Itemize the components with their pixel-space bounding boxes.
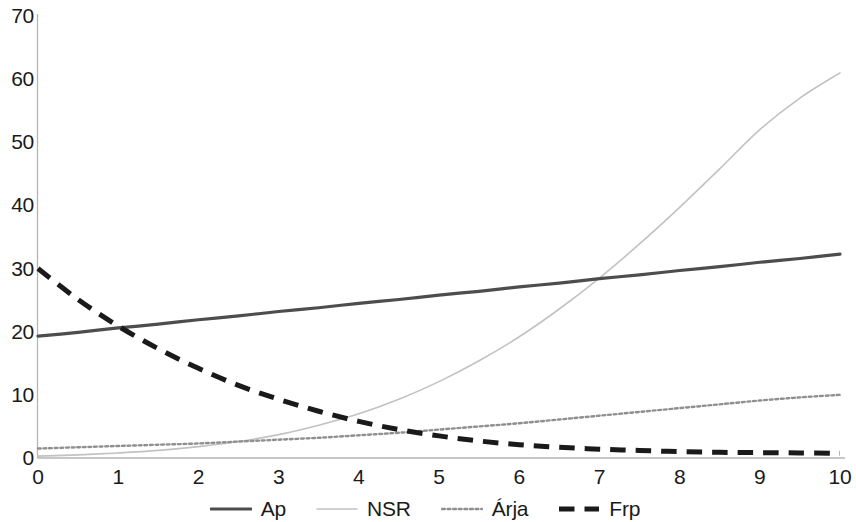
axis-lines: [38, 14, 846, 458]
x-tick-8: 8: [660, 466, 700, 487]
y-tick-70: 70: [0, 5, 34, 26]
y-tick-40: 40: [0, 194, 34, 215]
y-tick-60: 60: [0, 68, 34, 89]
x-tick-0: 0: [18, 466, 58, 487]
legend-item-frp[interactable]: Frp: [558, 498, 640, 519]
legend-item-árja[interactable]: Árja: [441, 498, 529, 519]
legend-label-árja: Árja: [492, 498, 529, 519]
x-tick-4: 4: [339, 466, 379, 487]
y-tick-50: 50: [0, 131, 34, 152]
y-tick-20: 20: [0, 321, 34, 342]
y-tick-30: 30: [0, 258, 34, 279]
series-line-ap: [38, 254, 840, 336]
x-tick-7: 7: [579, 466, 619, 487]
legend-swatch-nsr-icon: [316, 503, 358, 515]
series-group: [38, 73, 840, 456]
legend-swatch-árja-icon: [441, 503, 483, 515]
legend-item-ap[interactable]: Ap: [210, 498, 286, 519]
legend-label-frp: Frp: [609, 498, 640, 519]
y-tick-0: 0: [0, 447, 34, 468]
legend-swatch-frp-icon: [558, 503, 600, 515]
y-tick-10: 10: [0, 384, 34, 405]
x-tick-9: 9: [740, 466, 780, 487]
series-line-árja: [38, 395, 840, 449]
x-axis-tick-labels: 012345678910: [0, 466, 850, 494]
x-tick-10: 10: [820, 466, 856, 487]
chart-legend: ApNSRÁrjaFrp: [0, 495, 850, 522]
series-line-nsr: [38, 73, 840, 456]
legend-item-nsr[interactable]: NSR: [316, 498, 411, 519]
x-tick-5: 5: [419, 466, 459, 487]
x-tick-3: 3: [259, 466, 299, 487]
legend-label-nsr: NSR: [367, 498, 411, 519]
y-axis-tick-labels: 010203040506070: [0, 0, 34, 470]
legend-swatch-ap-icon: [210, 503, 252, 515]
x-tick-2: 2: [178, 466, 218, 487]
x-tick-1: 1: [98, 466, 138, 487]
x-tick-6: 6: [499, 466, 539, 487]
legend-label-ap: Ap: [261, 498, 286, 519]
